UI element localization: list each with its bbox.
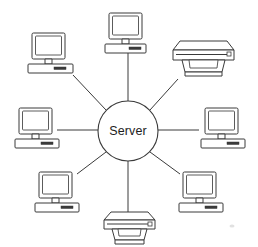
server-hub-node[interactable]: Server [98,101,158,161]
monitor-neck-icon [196,198,203,203]
printer-tray-lip-icon [185,72,222,76]
printer-tray-lip-icon [115,240,144,244]
network-diagram: Server [0,0,258,247]
monitor-screen-icon [36,36,62,55]
monitor-neck-icon [52,198,59,203]
keyboard-strip-icon [41,142,53,145]
node-computer-top[interactable] [105,13,146,53]
link-line-server-to-printer-top-right [150,79,178,110]
printer-top-deck-icon [104,212,155,220]
monitor-screen-icon [23,111,49,130]
monitor-neck-icon [122,39,129,44]
monitor-neck-icon [218,134,225,139]
network-topology-canvas: Server [0,0,258,247]
printer-control-button-icon[interactable] [148,222,152,226]
link-line-server-to-computer-bottom-right [150,152,180,174]
node-computer-right[interactable] [201,108,245,148]
keyboard-strip-icon [54,67,66,70]
monitor-screen-icon [187,175,213,194]
monitor-screen-icon [43,175,69,194]
keyboard-strip-icon [61,206,73,209]
link-line-server-to-computer-bottom-left [77,152,106,174]
monitor-screen-icon [113,16,139,35]
monitor-screen-icon [209,111,235,130]
printer-paper-sheet-icon [189,60,218,68]
server-hub-label: Server [109,124,146,138]
monitor-neck-icon [32,134,39,139]
node-computer-bottom-left[interactable] [35,172,79,212]
node-computer-left[interactable] [15,108,59,148]
printer-control-button-icon[interactable] [227,52,231,56]
monitor-neck-icon [45,59,52,64]
node-printer-bottom[interactable] [104,212,155,244]
keyboard-strip-icon [227,142,239,145]
node-printer-top-right[interactable] [173,41,234,76]
link-line-server-to-computer-top-left [73,75,106,110]
node-computer-bottom-right[interactable] [179,172,223,212]
scan-artifact-smudge [230,224,235,227]
keyboard-strip-icon [205,206,217,209]
keyboard-strip-icon [129,47,141,50]
printer-top-deck-icon [173,41,234,50]
node-computer-top-left[interactable] [28,33,73,73]
printer-paper-sheet-icon [118,229,141,236]
